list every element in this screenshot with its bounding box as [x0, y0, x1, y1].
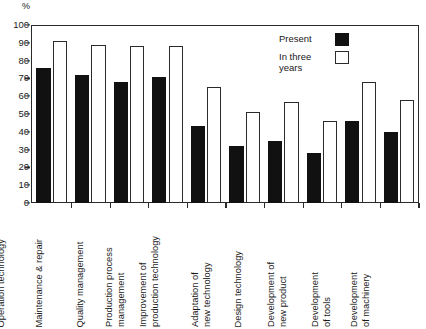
x-axis-tick [71, 203, 72, 208]
bar-in-three-years [130, 46, 144, 203]
y-axis-tick-label: 20 [5, 163, 29, 173]
x-axis-label: Design technology [234, 251, 246, 328]
bar-in-three-years [91, 45, 105, 203]
y-axis: 0102030405060708090100 [0, 25, 29, 203]
y-axis-tick-label: 90 [5, 38, 29, 48]
bar-in-three-years [246, 112, 260, 203]
y-axis-tick-label: 60 [5, 92, 29, 102]
y-axis-unit-label: % [22, 1, 30, 11]
y-axis-tick-label: 10 [5, 181, 29, 191]
x-axis-label: Production process management [105, 247, 128, 327]
x-axis-label: Development of tools [310, 272, 333, 327]
bar-group [32, 25, 71, 203]
bar-present [75, 75, 89, 203]
y-axis-tick-label: 80 [5, 56, 29, 66]
x-axis-label: Development of machinery [349, 272, 372, 327]
bar-present [191, 126, 205, 203]
x-axis-tick [303, 203, 304, 208]
bar-group [148, 25, 187, 203]
bar-group [380, 25, 419, 203]
x-axis-tick [148, 203, 149, 208]
bar-group [187, 25, 226, 203]
legend-swatch-outlined-white-square [335, 51, 349, 64]
x-axis-tick [341, 203, 342, 208]
legend-swatch-filled-black-square [335, 33, 349, 46]
bar-group [225, 25, 264, 203]
legend-item: In three years [279, 51, 379, 73]
x-axis-label-slot: Development of machinery [380, 209, 419, 327]
bar-in-three-years [284, 102, 298, 203]
bar-in-three-years [323, 121, 337, 203]
legend-item-label: Present [279, 33, 335, 44]
bar-present [268, 141, 282, 203]
x-axis-tick [225, 203, 226, 208]
x-axis-tick [110, 203, 111, 208]
legend-item-label: In three years [279, 51, 335, 73]
x-axis-label: Development of new product [266, 262, 289, 327]
bar-present [114, 82, 128, 203]
bar-in-three-years [169, 46, 183, 203]
y-axis-tick-label: 0 [5, 198, 29, 208]
bar-present [36, 68, 50, 203]
x-axis-tick [187, 203, 188, 208]
bar-present [307, 153, 321, 203]
bar-in-three-years [207, 87, 221, 203]
x-axis-tick [380, 203, 381, 208]
x-axis-label: Quality management [74, 241, 86, 327]
x-axis-tick [264, 203, 265, 208]
chart-legend: PresentIn three years [279, 33, 379, 78]
x-axis-tick [418, 203, 419, 208]
x-axis-label: Maintenance & repair [35, 239, 47, 327]
legend-item: Present [279, 33, 379, 46]
x-axis-labels: Operation technologyMaintenance & repair… [32, 209, 418, 329]
x-axis-label: Improvement of production technology [138, 236, 161, 327]
x-axis-label: Adaptation of new technology [189, 262, 212, 327]
bar-chart: % 0102030405060708090100 PresentIn three… [0, 0, 426, 329]
x-axis-label: Operation technology [0, 239, 7, 327]
bar-in-three-years [400, 100, 414, 203]
y-axis-tick-label: 70 [5, 74, 29, 84]
bar-group [71, 25, 110, 203]
y-axis-tick-label: 100 [5, 20, 29, 30]
y-axis-tick-label: 30 [5, 145, 29, 155]
bar-group [110, 25, 149, 203]
bar-present [384, 132, 398, 203]
y-axis-tick-label: 50 [5, 109, 29, 119]
y-axis-tick-label: 40 [5, 127, 29, 136]
bar-in-three-years [362, 82, 376, 203]
bar-present [229, 146, 243, 203]
bar-present [152, 77, 166, 203]
bar-present [345, 121, 359, 203]
bar-in-three-years [53, 41, 67, 203]
